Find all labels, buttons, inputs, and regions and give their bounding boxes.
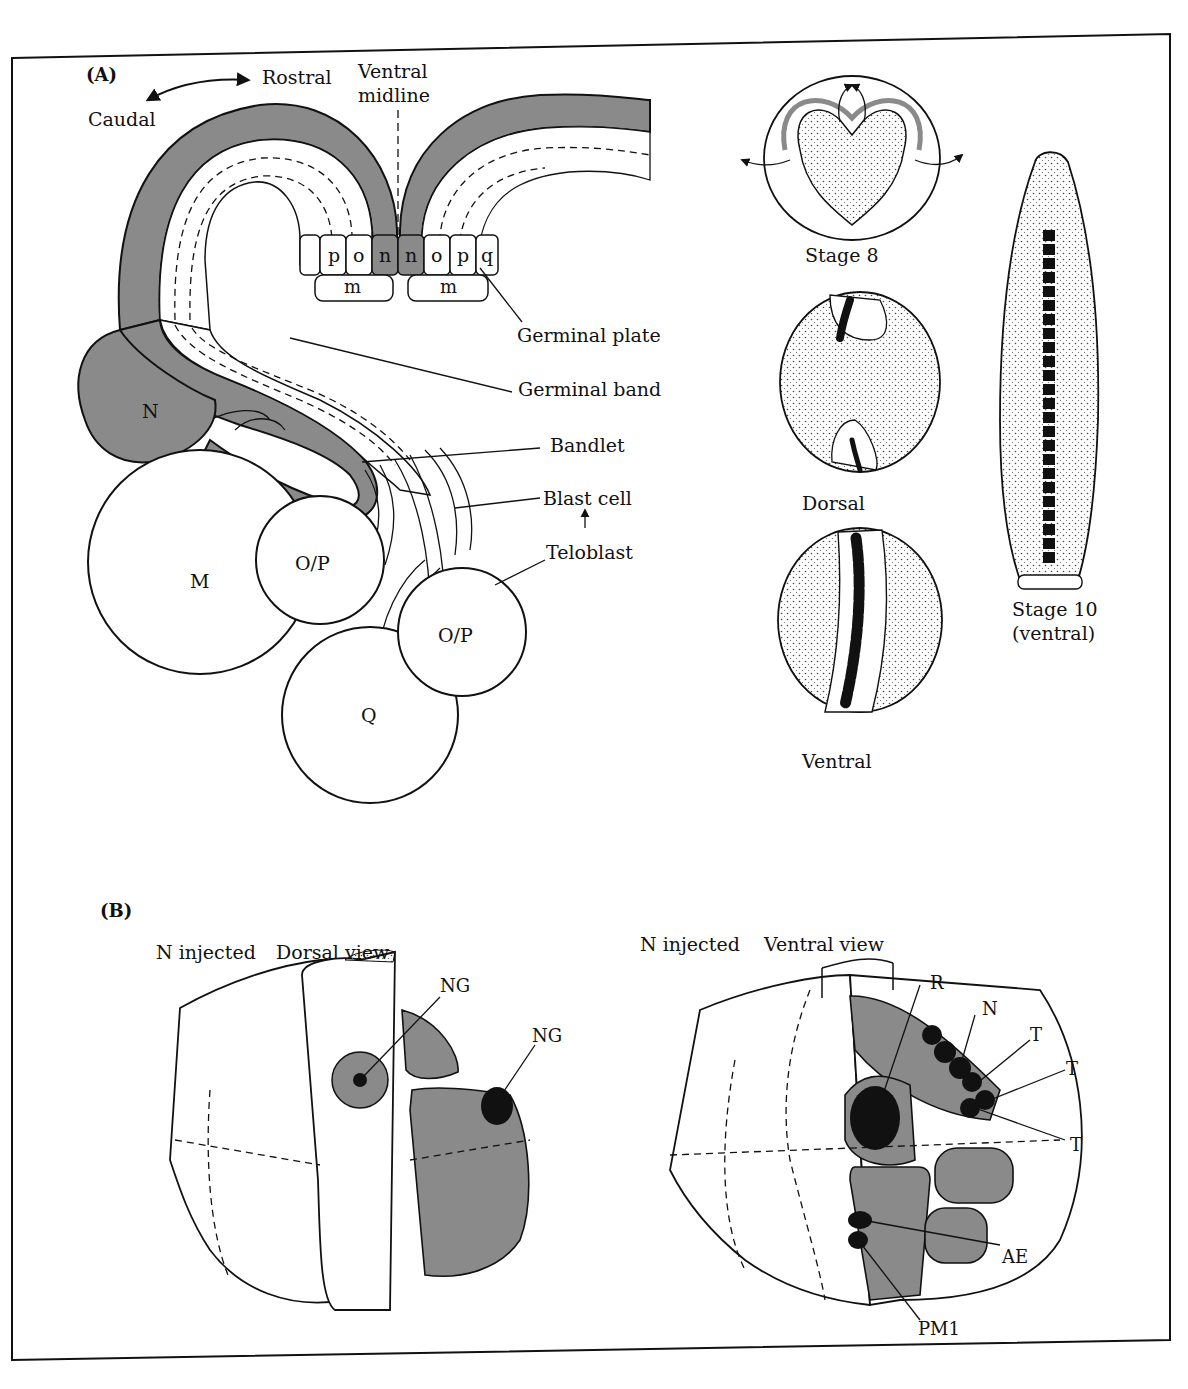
label-ventral-midline-2: midline [358,84,430,106]
figure-canvas [0,0,1188,1389]
label-r: R [930,972,944,993]
cell-q: q [481,244,493,266]
label-caudal: Caudal [88,108,156,130]
label-blast-cell: Blast cell [543,487,632,509]
cell-n-right: n [405,244,417,266]
label-ng-1: NG [440,975,470,996]
label-teloblast-n: N [142,400,159,422]
panel-b-tag: (B) [100,900,132,921]
label-t-2: T [1066,1058,1078,1079]
label-ventral-view: Ventral view [764,933,884,955]
ventral-embryo [778,528,942,712]
label-right-n-injected: N injected [640,933,740,955]
label-stage-8: Stage 8 [805,244,879,266]
cell-p-left: p [328,244,340,266]
label-t-3: T [1070,1134,1082,1155]
label-ventral: Ventral [802,750,872,772]
label-stage-10: Stage 10 [1012,598,1098,620]
dorsal-embryo [780,292,940,472]
label-ng-2: NG [532,1025,562,1046]
label-teloblast-m: M [190,570,209,592]
cell-n-left: n [379,244,391,266]
label-ventral-midline-1: Ventral [358,60,428,82]
label-rostral: Rostral [262,66,332,88]
cell-m-left: m [344,276,361,297]
label-ae: AE [1002,1246,1028,1267]
label-germinal-band: Germinal band [518,378,661,400]
label-stage-10-ventral: (ventral) [1012,622,1095,644]
label-teloblast-op2: O/P [438,624,473,646]
label-teloblast: Teloblast [546,541,633,563]
rostral-caudal-arrow-icon [148,80,248,100]
panel-a-tag: (A) [86,64,117,85]
label-teloblast-q: Q [361,704,377,726]
cell-o-left: o [353,244,364,266]
dorsal-view-embryo [170,950,530,1310]
stage-10-embryo [1000,152,1098,589]
label-bandlet: Bandlet [550,434,625,456]
cell-p-right: p [457,244,469,266]
label-t-1: T [1030,1024,1042,1045]
stage-8-embryo [742,76,962,240]
label-germinal-plate: Germinal plate [517,324,661,346]
cell-o-right: o [431,244,442,266]
cell-m-right: m [440,276,457,297]
label-dorsal: Dorsal [802,492,865,514]
label-left-n-injected: N injected [156,941,256,963]
label-pm1: PM1 [918,1318,960,1339]
label-dorsal-view: Dorsal view [276,941,389,963]
label-teloblast-op1: O/P [295,552,330,574]
label-n: N [982,998,998,1019]
